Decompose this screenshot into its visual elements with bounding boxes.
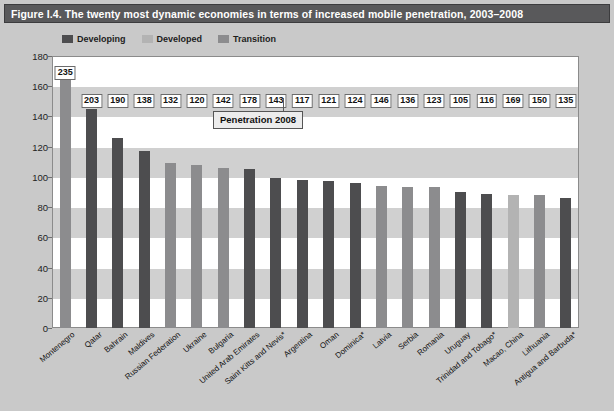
x-axis-label: Argentina	[282, 330, 314, 359]
x-axis-label: Oman	[318, 330, 340, 351]
y-axis-tick-mark	[48, 328, 52, 329]
bar-romania[interactable]	[429, 187, 440, 328]
legend-item-developing: Developing	[62, 34, 126, 44]
x-axis-label: Bahrain	[103, 330, 130, 355]
bar-macao-china[interactable]	[508, 195, 519, 328]
bar-dominica[interactable]	[350, 183, 361, 328]
x-axis-label: Montenegro	[38, 330, 76, 364]
bar-argentina[interactable]	[297, 180, 308, 328]
figure-page: Figure I.4. The twenty most dynamic econ…	[0, 0, 614, 411]
legend-label: Developing	[77, 34, 126, 44]
bar-lithuania[interactable]	[534, 195, 545, 328]
bar-oman[interactable]	[323, 181, 334, 328]
bar-united-arab-emirates[interactable]	[244, 169, 255, 328]
y-axis-tick-label: 180	[8, 51, 48, 62]
bar-qatar[interactable]	[86, 109, 97, 328]
y-axis-tick-label: 100	[8, 171, 48, 182]
bar-antigua-and-barbuda[interactable]	[560, 198, 571, 328]
penetration-2008-callout: Penetration 2008	[213, 111, 303, 129]
y-axis-tick-label: 160	[8, 81, 48, 92]
y-axis-tick-label: 80	[8, 202, 48, 213]
y-axis-tick-label: 0	[8, 323, 48, 334]
legend-item-transition: Transition	[218, 34, 276, 44]
bar-montenegro[interactable]	[60, 71, 71, 328]
y-axis-tick-label: 20	[8, 292, 48, 303]
bar-uruguay[interactable]	[455, 192, 466, 328]
legend-item-developed: Developed	[142, 34, 203, 44]
legend-swatch-icon	[142, 35, 153, 43]
bar-maldives[interactable]	[139, 151, 150, 328]
bar-trinidad-and-tobago[interactable]	[481, 194, 492, 328]
bar-latvia[interactable]	[376, 186, 387, 328]
y-axis-tick-label: 60	[8, 232, 48, 243]
bar-bulgaria[interactable]	[218, 168, 229, 328]
y-axis-tick-label: 40	[8, 262, 48, 273]
x-axis-label: Romania	[416, 330, 446, 357]
x-axis-labels: MontenegroQatarBahrainMaldivesRussian Fe…	[52, 330, 612, 410]
chart-legend: DevelopingDevelopedTransition	[62, 31, 276, 47]
legend-swatch-icon	[218, 35, 229, 43]
x-axis-label: Qatar	[82, 330, 103, 350]
callout-leader-line	[283, 98, 284, 112]
page-title: Figure I.4. The twenty most dynamic econ…	[5, 8, 523, 20]
x-axis-label: Latvia	[371, 330, 393, 351]
figure-title-bar: Figure I.4. The twenty most dynamic econ…	[4, 4, 610, 23]
bar-series	[52, 56, 579, 328]
x-axis-label: Ukraine	[182, 330, 209, 355]
legend-label: Developed	[157, 34, 203, 44]
legend-label: Transition	[233, 34, 276, 44]
bar-saint-kitts-and-nevis[interactable]	[270, 178, 281, 328]
bar-ukraine[interactable]	[191, 165, 202, 328]
bar-serbia[interactable]	[402, 187, 413, 328]
y-axis-tick-label: 140	[8, 111, 48, 122]
bar-bahrain[interactable]	[112, 138, 123, 328]
legend-swatch-icon	[62, 35, 73, 43]
bar-russian-federation[interactable]	[165, 163, 176, 328]
y-axis-tick-label: 120	[8, 141, 48, 152]
